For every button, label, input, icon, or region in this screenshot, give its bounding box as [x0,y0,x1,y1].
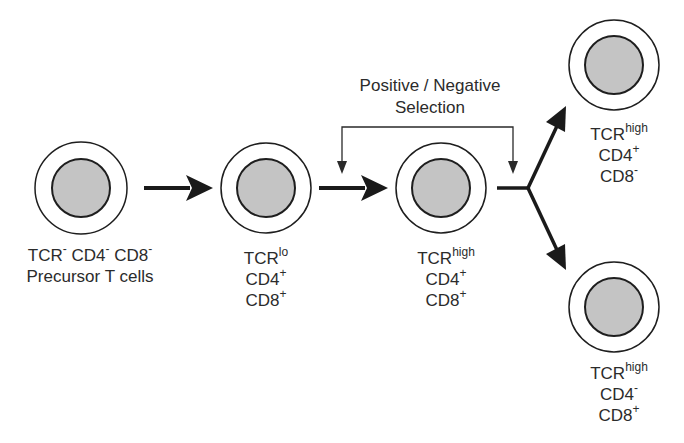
selection-label-line1: Positive / Negative [330,75,530,97]
cell-nucleus [412,159,470,217]
cell-nucleus [585,36,643,94]
cd4-marker: CD4+ [391,269,501,290]
selection-label: Positive / Negative Selection [330,75,530,119]
cell-cd4-single-positive [569,20,659,110]
label-double-positive-high: TCRhigh CD4+ CD8+ [391,248,501,311]
fork-arrows [497,106,566,270]
cd8-marker: CD8+ [391,290,501,311]
label-double-positive-lo: TCRlo CD4+ CD8+ [216,248,316,311]
selection-label-line2: Selection [330,97,530,119]
cd4-marker: CD4- [564,384,674,405]
cell-nucleus [52,159,110,217]
cell-precursor [35,142,127,234]
tcr-marker: TCRhigh [391,248,501,269]
cd4-marker: CD4+ [216,269,316,290]
tcr-marker: TCRlo [216,248,316,269]
precursor-name: Precursor T cells [0,266,180,287]
label-precursor: TCR- CD4- CD8- Precursor T cells [0,245,180,287]
cell-cd8-single-positive [569,262,659,352]
cd4-marker: CD4+ [564,145,674,166]
cd8-marker: CD8+ [216,290,316,311]
cell-nucleus [585,278,643,336]
tcr-marker: TCRhigh [564,363,674,384]
arrow-precursor-to-dp-lo [144,175,213,201]
cell-double-positive-lo [221,143,311,233]
cell-nucleus [237,159,295,217]
label-cd4-single-positive: TCRhigh CD4+ CD8- [564,124,674,187]
cd8-marker: CD8- [564,166,674,187]
tcr-marker: TCRhigh [564,124,674,145]
arrow-dp-lo-to-dp-high [319,175,388,201]
label-cd8-single-positive: TCRhigh CD4- CD8+ [564,363,674,426]
precursor-markers: TCR- CD4- CD8- [0,245,180,266]
cell-double-positive-high [396,143,486,233]
cd8-marker: CD8+ [564,405,674,426]
